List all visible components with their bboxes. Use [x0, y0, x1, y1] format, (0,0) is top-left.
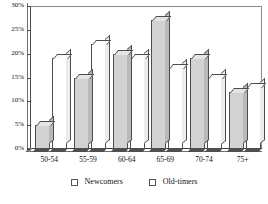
y-tick-label: 30% [0, 2, 24, 9]
y-axis-outer-line [27, 3, 28, 148]
bar-side-face [105, 35, 110, 144]
bar-old-timers-50-54 [52, 58, 67, 149]
bar-chart: 0%5%10%15%20%25%30% 50-5455-5960-6465-69… [0, 0, 268, 204]
bars-layer [30, 6, 262, 149]
bar-side-face [204, 49, 209, 144]
legend-swatch-oldtimers [149, 179, 156, 186]
legend-entry-oldtimers: Old-timers [149, 178, 198, 186]
bar-side-face [182, 59, 187, 144]
y-tick-label: 15% [0, 74, 24, 81]
x-axis-label-55-59: 55-59 [69, 155, 108, 164]
x-axis-label-60-64: 60-64 [107, 155, 146, 164]
bar-newcomers-65-69 [151, 20, 166, 149]
bar-side-face [221, 68, 226, 144]
bar-newcomers-55-59 [74, 78, 89, 150]
bar-newcomers-75+ [229, 92, 244, 149]
bar-side-face [127, 44, 132, 144]
legend-swatch-newcomers [71, 179, 78, 186]
y-tick-label: 0% [0, 145, 24, 152]
bar-newcomers-70-74 [190, 58, 205, 149]
legend-label-newcomers: Newcomers [85, 178, 123, 186]
y-tick-mark [27, 149, 30, 150]
y-tick-label: 5% [0, 121, 24, 128]
bar-old-timers-65-69 [168, 68, 183, 149]
bar-old-timers-55-59 [91, 44, 106, 149]
bar-base-shadow [226, 148, 244, 152]
bar-side-face [88, 68, 93, 144]
x-axis-label-65-69: 65-69 [146, 155, 185, 164]
legend-entry-newcomers: Newcomers [71, 178, 123, 186]
bar-base-shadow [127, 148, 145, 152]
bar-base-shadow [243, 148, 261, 152]
x-axis-label-70-74: 70-74 [185, 155, 224, 164]
bar-old-timers-70-74 [207, 78, 222, 150]
bar-newcomers-60-64 [113, 54, 128, 149]
bar-side-face [144, 49, 149, 144]
bar-base-shadow [110, 148, 128, 152]
legend-label-oldtimers: Old-timers [163, 178, 198, 186]
x-axis-label-75+: 75+ [223, 155, 262, 164]
x-axis-label-50-54: 50-54 [30, 155, 69, 164]
legend: Newcomers Old-timers [0, 178, 268, 186]
y-tick-label: 20% [0, 50, 24, 57]
bar-newcomers-50-54 [35, 125, 50, 149]
bar-side-face [66, 49, 71, 144]
bar-side-face [165, 11, 170, 144]
y-tick-label: 25% [0, 26, 24, 33]
y-tick-label: 10% [0, 97, 24, 104]
